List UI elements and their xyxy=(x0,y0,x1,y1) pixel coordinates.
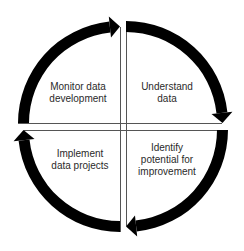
stage-monitor-line-1: Monitor data xyxy=(49,81,106,93)
arrow-implement-to-monitor xyxy=(14,130,120,232)
arrowhead-down-icon xyxy=(212,112,233,123)
cycle-diagram xyxy=(0,0,244,251)
arrowhead-left-icon xyxy=(126,216,137,237)
stage-monitor-label: Monitor data development xyxy=(49,81,106,105)
stage-understand-line-1: Understand xyxy=(141,81,193,93)
stage-identify-line-3: improvement xyxy=(138,166,196,178)
arc-top-left-icon xyxy=(18,22,111,123)
stage-identify-line-1: Identify xyxy=(138,142,196,154)
arrow-monitor-to-understand xyxy=(18,17,120,123)
stage-implement-line-2: data projects xyxy=(51,160,108,172)
stage-identify-label: Identify potential for improvement xyxy=(138,142,196,178)
arrowhead-up-icon xyxy=(14,130,35,141)
stage-monitor-line-2: development xyxy=(49,93,106,105)
stage-understand-label: Understand data xyxy=(141,81,193,105)
arrowhead-right-icon xyxy=(109,17,120,38)
stage-understand-line-2: data xyxy=(141,93,193,105)
stage-implement-label: Implement data projects xyxy=(51,148,108,172)
stage-identify-line-2: potential for xyxy=(138,154,196,166)
arrow-understand-to-identify xyxy=(126,21,232,123)
stage-implement-line-1: Implement xyxy=(51,148,108,160)
